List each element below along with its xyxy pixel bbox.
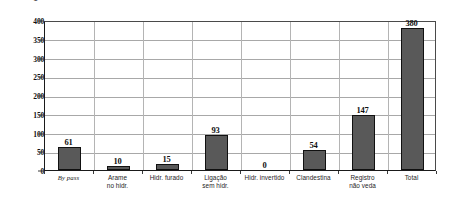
category-divider (94, 22, 95, 170)
bar-value-label: 380 (387, 18, 436, 28)
bar-value-label: 147 (338, 105, 387, 115)
gridline (45, 97, 435, 98)
bar[interactable] (303, 150, 326, 170)
category-divider (143, 22, 144, 170)
y-axis-tick-layer: 050100150200250300350400 (0, 21, 44, 171)
x-axis-tick-mark (338, 171, 339, 174)
x-axis-tick-mark (387, 171, 388, 174)
bar[interactable] (58, 147, 81, 170)
y-axis-tick-mark (38, 171, 43, 172)
category-divider (192, 22, 193, 170)
bar-value-label: 0 (240, 160, 289, 170)
bar[interactable] (401, 28, 424, 171)
category-divider (339, 22, 340, 170)
x-axis-category-line: no hidr. (93, 182, 142, 190)
y-axis-tick-mark (38, 152, 43, 153)
category-divider (388, 22, 389, 170)
x-axis-category-line: Total (387, 174, 436, 182)
x-axis-category-label[interactable]: Clandestina (289, 174, 338, 182)
x-axis-tick-mark (93, 171, 94, 174)
x-axis-tick-mark (44, 171, 45, 174)
gridline (45, 153, 435, 154)
bar[interactable] (107, 166, 130, 170)
x-axis-category-line: não veda (338, 182, 387, 190)
x-axis-tick-mark (142, 171, 143, 174)
bar[interactable] (352, 115, 375, 170)
x-axis-tick-mark (436, 171, 437, 174)
x-axis-category-line: Hidr. furado (142, 174, 191, 182)
bar[interactable] (205, 135, 228, 170)
x-axis-category-label[interactable]: Hidr. invertido (240, 174, 289, 182)
x-axis-category-line: Registro (338, 174, 387, 182)
x-axis-category-line: Arame (93, 174, 142, 182)
gridline (45, 59, 435, 60)
y-axis-tick-mark (38, 21, 43, 22)
x-axis-tick-mark (240, 171, 241, 174)
x-axis-category-label[interactable]: Registronão veda (338, 174, 387, 191)
bar-value-label: 54 (289, 140, 338, 150)
x-axis-category-label[interactable]: Ligaçãosem hidr. (191, 174, 240, 191)
gridline (45, 115, 435, 116)
x-axis-category-label[interactable]: Arameno hidr. (93, 174, 142, 191)
x-axis-category-layer: By passArameno hidr.Hidr. furadoLigaçãos… (44, 174, 436, 206)
x-axis-tick-mark (191, 171, 192, 174)
y-axis-tick-mark (38, 58, 43, 59)
y-axis-tick-mark (38, 96, 43, 97)
gridline (45, 78, 435, 79)
gridline (45, 134, 435, 135)
y-axis-tick-mark (38, 133, 43, 134)
bar-value-label: 93 (191, 125, 240, 135)
x-axis-tick-mark (289, 171, 290, 174)
x-axis-category-line: Hidr. invertido (240, 174, 289, 182)
chart-page: QTD 050100150200250300350400 By passAram… (0, 0, 451, 208)
bar-value-label: 15 (142, 154, 191, 164)
x-axis-category-line: By pass (44, 174, 93, 182)
x-axis-category-label[interactable]: By pass (44, 174, 93, 182)
y-axis-tick-mark (38, 39, 43, 40)
x-axis-category-label[interactable]: Total (387, 174, 436, 182)
x-axis-category-label[interactable]: Hidr. furado (142, 174, 191, 182)
y-axis-title: QTD (31, 0, 47, 1)
bar-value-label: 61 (44, 137, 93, 147)
plot-area (44, 21, 436, 171)
x-axis-category-line: sem hidr. (191, 182, 240, 190)
category-divider (241, 22, 242, 170)
x-axis-category-line: Clandestina (289, 174, 338, 182)
bar[interactable] (156, 164, 179, 170)
y-axis-tick-mark (38, 114, 43, 115)
gridline (45, 40, 435, 41)
y-axis-tick-mark (38, 77, 43, 78)
x-axis-category-line: Ligação (191, 174, 240, 182)
bar-value-label: 10 (93, 156, 142, 166)
